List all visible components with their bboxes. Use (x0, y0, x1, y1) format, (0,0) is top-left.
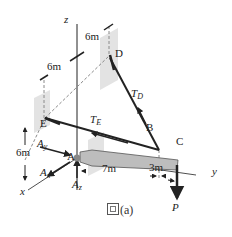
force-td-label: TD (131, 88, 143, 101)
force-ay-label: Ay (37, 138, 47, 151)
force-ax-label: Ax (40, 167, 50, 180)
figure-caption: (a) (107, 203, 133, 218)
point-b-label: B (146, 122, 153, 133)
z-axis-label: z (64, 14, 68, 25)
diagram-graphics (0, 0, 232, 237)
force-az-label: Az (72, 179, 82, 192)
force-te-label: TE (90, 114, 101, 127)
dim-bc: 3m (149, 162, 163, 173)
point-e-label: E (40, 118, 47, 129)
force-p-label: P (172, 202, 179, 213)
dim-left-vertical: 6m (16, 147, 30, 158)
point-d-label: D (115, 48, 123, 59)
x-axis-label: x (20, 186, 25, 197)
dim-top-left: 6m (47, 61, 61, 72)
y-axis-label: y (212, 166, 217, 177)
caption-glyph-icon (107, 203, 119, 215)
statics-diagram: z 6m 6m D E B C A TD TE Ay Ax Az P 6m 7m… (0, 0, 232, 237)
dim-ab: 7m (102, 163, 116, 174)
point-c-label: C (176, 136, 183, 147)
point-a-label: A (67, 151, 75, 162)
force-ax (48, 162, 70, 176)
dim-top-right: 6m (85, 31, 99, 42)
cable-td (110, 58, 159, 150)
